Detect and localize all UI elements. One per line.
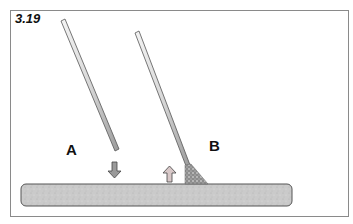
label-a: A <box>66 141 77 158</box>
arc-spatter <box>185 164 208 184</box>
welding-rod-b <box>135 31 190 166</box>
label-b: B <box>209 137 220 154</box>
down-arrow-icon <box>108 162 121 178</box>
diagram-canvas <box>0 0 353 224</box>
up-arrow-icon <box>163 166 176 182</box>
workpiece-plate <box>21 184 292 206</box>
welding-rod-a <box>61 19 119 151</box>
